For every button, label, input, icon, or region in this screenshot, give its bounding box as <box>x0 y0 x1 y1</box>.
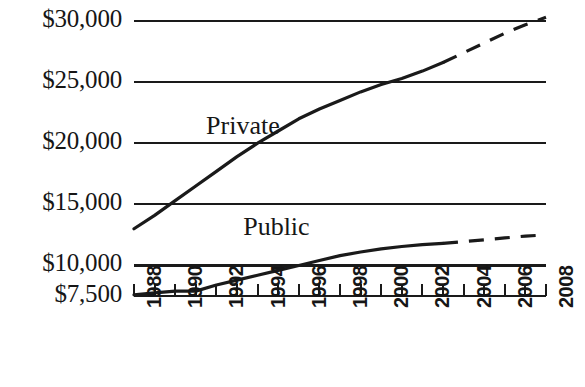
y-axis-tick-label: $30,000 <box>42 5 122 33</box>
x-axis-tick-label: 2006 <box>514 266 537 309</box>
x-axis-tick-label: 2004 <box>473 266 496 309</box>
x-axis-tick-label: 1994 <box>267 266 290 309</box>
gridlines-group <box>134 21 546 265</box>
x-axis-tick-label: 1992 <box>225 266 248 309</box>
y-axis-tick-label: $25,000 <box>42 66 122 94</box>
y-axis-tick-label: $15,000 <box>42 188 122 216</box>
series-label-public: Public <box>243 212 309 242</box>
x-axis-tick-label: 2002 <box>431 266 454 309</box>
y-axis-tick-label: $7,500 <box>54 280 122 308</box>
x-axis-tick-label: 2000 <box>390 266 413 309</box>
y-axis-tick-label: $20,000 <box>42 127 122 155</box>
chart-container: $30,000$25,000$20,000$15,000$10,000$7,50… <box>0 0 585 387</box>
data-series-group <box>134 17 546 294</box>
y-axis-tick-label: $10,000 <box>42 249 122 277</box>
x-axis-tick-label: 1988 <box>143 266 166 309</box>
x-axis-tick-label: 2008 <box>555 266 578 309</box>
series-label-private: Private <box>206 111 280 141</box>
x-axis-tick-label: 1998 <box>349 266 372 309</box>
x-axis-tick-label: 1996 <box>308 266 331 309</box>
x-axis-tick-label: 1990 <box>184 266 207 309</box>
